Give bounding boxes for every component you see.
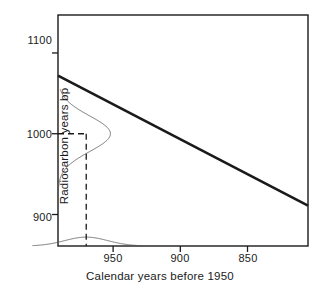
radiocarbon-calibration-figure: Radiocarbon years bp Calendar years befo… — [0, 0, 320, 292]
y-tick-label-900: 900 — [14, 211, 52, 223]
calibration-curve — [58, 76, 308, 206]
y-axis-label: Radiocarbon years bp — [58, 88, 70, 205]
x-axis-label: Calendar years before 1950 — [0, 270, 320, 282]
y-tick-label-1100: 1100 — [14, 34, 52, 46]
x-tick-label-850: 850 — [239, 252, 258, 264]
x-tick-label-950: 950 — [104, 252, 123, 264]
calendar-density-curve — [32, 237, 142, 246]
y-tick-label-1000: 1000 — [14, 128, 52, 140]
plot-frame — [58, 15, 308, 246]
x-tick-label-900: 900 — [171, 252, 190, 264]
